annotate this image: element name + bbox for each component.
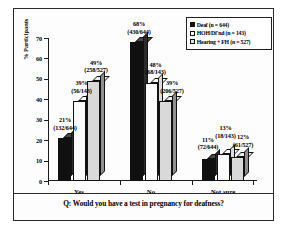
y-tick	[44, 99, 48, 100]
bar-side-face	[244, 147, 249, 177]
bar-label-fraction: (56/143)	[65, 87, 99, 94]
y-tick-label: 70	[26, 35, 42, 42]
bar[interactable]	[217, 154, 230, 181]
bar-label-fraction: (206/527)	[155, 87, 189, 94]
x-tick	[120, 181, 121, 185]
bar[interactable]	[87, 81, 100, 181]
bar[interactable]	[73, 101, 86, 181]
x-tick	[48, 181, 49, 185]
y-tick-label: 60	[26, 55, 42, 62]
bar-data-label: 39%(206/527)	[155, 79, 189, 94]
bar-label-percent: 39%	[155, 79, 189, 86]
y-tick-label: 40	[26, 96, 42, 103]
y-tick	[44, 58, 48, 59]
bar[interactable]	[58, 138, 71, 181]
figure-canvas: % Participants 010203040506070 21%(132/6…	[0, 0, 287, 237]
bar-label-fraction: (132/644)	[48, 124, 82, 131]
bar-label-percent: 49%	[79, 59, 113, 66]
bar[interactable]	[159, 101, 172, 181]
x-tick	[192, 181, 193, 185]
legend-item[interactable]: Deaf (n = 644)	[190, 21, 268, 30]
caption-divider	[14, 193, 273, 194]
bar-data-label: 48%(68/143)	[139, 61, 173, 76]
plot-area: 010203040506070 21%(132/644)39%(56/143)4…	[48, 38, 257, 181]
bar-label-fraction: (61/527)	[226, 141, 260, 148]
y-tick-label: 10	[26, 157, 42, 164]
bar-data-label: 39%(56/143)	[65, 79, 99, 94]
legend-swatch-deaf	[190, 22, 195, 27]
bar-front-face	[145, 83, 158, 181]
bar-label-fraction: (430/644)	[122, 28, 156, 35]
bar-label-percent: 13%	[209, 124, 243, 131]
bar-side-face	[172, 91, 177, 176]
bar[interactable]	[202, 159, 215, 181]
bar-front-face	[217, 154, 230, 181]
legend-swatch-hearing	[190, 39, 195, 44]
legend-label-hearing: Hearing + FH (n = 527)	[197, 39, 251, 45]
bar-label-percent: 39%	[65, 79, 99, 86]
bar-label-fraction: (258/527)	[79, 66, 113, 73]
bar-front-face	[159, 101, 172, 181]
bar-front-face	[202, 159, 215, 181]
bar-front-face	[231, 157, 244, 182]
legend-item[interactable]: HOH/Df'nd (n = 143)	[190, 29, 268, 38]
y-tick-label: 50	[26, 75, 42, 82]
bar-label-fraction: (68/143)	[139, 68, 173, 75]
bar-label-percent: 68%	[122, 20, 156, 27]
bar-front-face	[58, 138, 71, 181]
y-tick	[44, 140, 48, 141]
bar-label-percent: 21%	[48, 116, 82, 123]
legend-item[interactable]: Hearing + FH (n = 527)	[190, 38, 268, 47]
bar[interactable]	[231, 157, 244, 182]
bar-label-fraction: (72/644)	[191, 143, 225, 150]
x-tick	[253, 181, 254, 185]
chart-legend: Deaf (n = 644) HOH/Df'nd (n = 143) Heari…	[186, 17, 272, 50]
bar-data-label: 68%(430/644)	[122, 20, 156, 35]
y-tick-label: 0	[26, 178, 42, 185]
legend-swatch-hoh	[190, 31, 195, 36]
bar-front-face	[87, 81, 100, 181]
bar-label-percent: 48%	[139, 61, 173, 68]
bar[interactable]	[145, 83, 158, 181]
bar-data-label: 12%(61/527)	[226, 133, 260, 148]
figure-caption: Q: Would you have a test in pregnancy fo…	[14, 199, 273, 208]
legend-label-hoh: HOH/Df'nd (n = 143)	[197, 30, 246, 36]
bar-side-face	[100, 71, 105, 176]
y-tick	[44, 79, 48, 80]
bar-label-percent: 12%	[226, 133, 260, 140]
bar-data-label: 49%(258/527)	[79, 59, 113, 74]
y-tick-label: 30	[26, 116, 42, 123]
y-tick	[44, 161, 48, 162]
y-tick	[44, 38, 48, 39]
y-axis-line	[48, 38, 49, 181]
bar-front-face	[73, 101, 86, 181]
y-tick-label: 20	[26, 137, 42, 144]
legend-label-deaf: Deaf (n = 644)	[197, 22, 229, 28]
bar-data-label: 21%(132/644)	[48, 116, 82, 131]
